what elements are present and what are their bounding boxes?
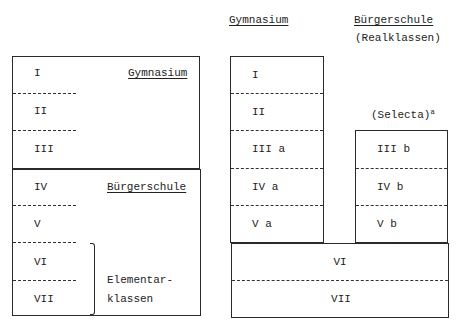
right-class-IIIb: III b bbox=[377, 143, 410, 155]
right-class-VI: VI bbox=[333, 256, 346, 268]
elementarklassen-label-line2: klassen bbox=[107, 293, 153, 305]
left-class-V: V bbox=[34, 218, 41, 230]
selecta-footnote-marker: a bbox=[430, 108, 434, 116]
left-class-III: III bbox=[34, 143, 54, 155]
left-divider-5 bbox=[13, 280, 76, 281]
right-header-buergerschule-text: Bürgerschule bbox=[354, 14, 433, 26]
left-divider-2 bbox=[13, 130, 76, 131]
right-real-divider-1 bbox=[356, 168, 447, 169]
selecta-label-text: (Selecta) bbox=[371, 109, 430, 121]
right-header-gymnasium-text: Gymnasium bbox=[229, 14, 288, 26]
left-divider-1 bbox=[13, 93, 76, 94]
right-class-Va: V a bbox=[252, 218, 272, 230]
left-divider-4 bbox=[13, 242, 76, 243]
right-real-divider-2 bbox=[356, 205, 447, 206]
left-class-I: I bbox=[34, 67, 41, 79]
right-header-realklassen: (Realklassen) bbox=[355, 32, 441, 44]
right-header-buergerschule: Bürgerschule bbox=[354, 14, 433, 26]
right-class-Vb: V b bbox=[377, 218, 397, 230]
left-buergerschule-label: Bürgerschule bbox=[107, 181, 186, 193]
right-class-I: I bbox=[252, 69, 259, 81]
left-class-II: II bbox=[34, 105, 47, 117]
right-gym-divider-1 bbox=[231, 93, 323, 94]
right-bottom-divider bbox=[232, 280, 448, 281]
left-buergerschule-label-text: Bürgerschule bbox=[107, 181, 186, 193]
right-class-II: II bbox=[252, 106, 265, 118]
left-class-VII: VII bbox=[34, 293, 54, 305]
right-class-VII: VII bbox=[331, 293, 351, 305]
selecta-label: (Selecta)a bbox=[371, 106, 435, 121]
right-gym-divider-4 bbox=[231, 205, 323, 206]
left-class-VI: VI bbox=[34, 256, 47, 268]
left-gymnasium-label-text: Gymnasium bbox=[128, 67, 187, 79]
right-gym-divider-2 bbox=[231, 130, 323, 131]
right-class-IVa: IV a bbox=[252, 181, 278, 193]
left-gymnasium-label: Gymnasium bbox=[128, 67, 187, 79]
right-gym-divider-3 bbox=[231, 168, 323, 169]
elementarklassen-bracket bbox=[90, 243, 95, 315]
right-class-IVb: IV b bbox=[377, 181, 403, 193]
left-class-IV: IV bbox=[34, 181, 47, 193]
right-header-gymnasium: Gymnasium bbox=[229, 14, 288, 26]
right-class-IIIa: III a bbox=[252, 143, 285, 155]
left-divider-3 bbox=[13, 205, 76, 206]
elementarklassen-label-line1: Elementar- bbox=[107, 274, 173, 286]
